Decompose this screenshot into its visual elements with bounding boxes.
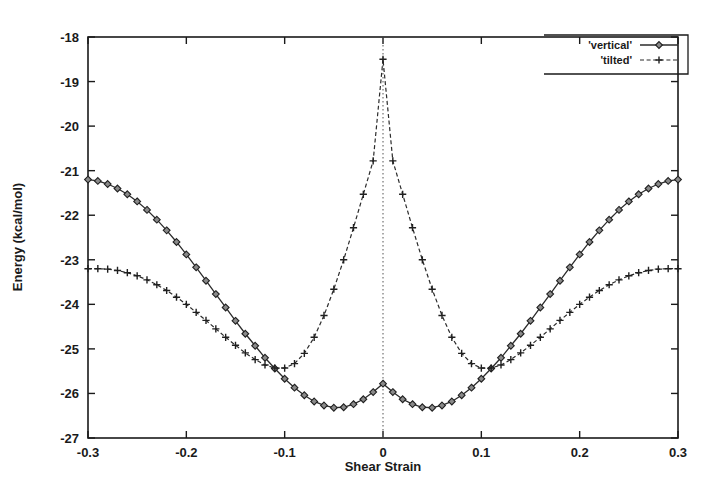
- data-point-marker: [281, 364, 288, 371]
- legend-label-tilted: 'tilted': [600, 54, 632, 66]
- y-tick-label: -20: [60, 119, 79, 134]
- data-point-marker: [143, 276, 150, 283]
- data-point-marker: [665, 265, 672, 272]
- y-tick-label: -26: [60, 386, 79, 401]
- data-point-marker: [429, 404, 436, 411]
- data-point-marker: [419, 404, 426, 411]
- data-point-marker: [350, 401, 357, 408]
- data-point-marker: [330, 286, 337, 293]
- y-axis-tick-labels: -27-26-25-24-23-22-21-20-19-18: [60, 30, 80, 446]
- chart-legend: 'vertical' 'tilted': [544, 35, 688, 74]
- data-point-marker: [448, 334, 455, 341]
- data-point-marker: [665, 178, 672, 185]
- data-point-marker: [360, 191, 367, 198]
- data-point-marker: [645, 185, 652, 192]
- x-tick-label: -0.2: [175, 445, 197, 460]
- data-point-marker: [409, 401, 416, 408]
- data-point-marker: [321, 402, 328, 409]
- legend-marker-diamond-icon: [656, 42, 663, 49]
- data-point-marker: [468, 360, 475, 367]
- data-point-marker: [596, 287, 603, 294]
- data-point-marker: [675, 176, 682, 183]
- data-point-marker: [507, 356, 514, 363]
- data-point-marker: [330, 404, 337, 411]
- x-tick-label: 0.2: [571, 445, 589, 460]
- data-point-marker: [114, 267, 121, 274]
- data-point-marker: [655, 181, 662, 188]
- y-tick-label: -23: [60, 253, 79, 268]
- x-tick-label: -0.1: [273, 445, 295, 460]
- data-point-marker: [606, 281, 613, 288]
- data-point-marker: [399, 191, 406, 198]
- legend-sample-vertical: [640, 42, 678, 49]
- data-point-marker: [645, 267, 652, 274]
- data-point-marker: [566, 309, 573, 316]
- x-tick-label: 0.3: [669, 445, 687, 460]
- x-tick-label: 0: [379, 445, 386, 460]
- x-axis-tick-labels: -0.3-0.2-0.100.10.20.3: [77, 445, 687, 460]
- data-point-marker: [537, 334, 544, 341]
- data-point-marker: [320, 312, 327, 319]
- data-point-marker: [311, 334, 318, 341]
- data-point-marker: [674, 265, 681, 272]
- data-point-marker: [311, 398, 318, 405]
- energy-shear-strain-chart: -27-26-25-24-23-22-21-20-19-18 -0.3-0.2-…: [0, 0, 708, 500]
- data-point-marker: [94, 265, 101, 272]
- data-point-marker: [94, 178, 101, 185]
- data-point-marker: [389, 157, 396, 164]
- y-tick-label: -18: [60, 30, 79, 45]
- legend-marker-plus-icon: [655, 56, 662, 63]
- data-point-marker: [655, 266, 662, 273]
- data-point-marker: [438, 312, 445, 319]
- data-point-marker: [429, 286, 436, 293]
- y-axis-title: Energy (kcal/mol): [10, 183, 25, 291]
- data-point-marker: [625, 272, 632, 279]
- data-point-marker: [527, 342, 534, 349]
- data-point-marker: [409, 224, 416, 231]
- y-tick-label: -22: [60, 208, 79, 223]
- data-point-marker: [497, 361, 504, 368]
- plot-canvas: -27-26-25-24-23-22-21-20-19-18 -0.3-0.2-…: [0, 0, 708, 500]
- x-tick-label: -0.3: [77, 445, 99, 460]
- data-point-marker: [615, 276, 622, 283]
- data-point-marker: [556, 317, 563, 324]
- data-point-marker: [439, 402, 446, 409]
- data-point-marker: [134, 272, 141, 279]
- data-point-marker: [419, 256, 426, 263]
- data-point-marker: [163, 287, 170, 294]
- x-tick-label: 0.1: [472, 445, 490, 460]
- y-tick-label: -19: [60, 75, 79, 90]
- y-tick-label: -24: [60, 297, 80, 312]
- data-point-marker: [124, 269, 131, 276]
- data-point-marker: [114, 185, 121, 192]
- data-point-marker: [379, 56, 386, 63]
- y-tick-label: -25: [60, 342, 79, 357]
- data-point-marker: [173, 294, 180, 301]
- legend-label-vertical: 'vertical': [588, 39, 632, 51]
- data-point-marker: [252, 356, 259, 363]
- data-point-marker: [547, 325, 554, 332]
- data-point-marker: [85, 176, 92, 183]
- data-point-marker: [261, 361, 268, 368]
- data-point-marker: [350, 224, 357, 231]
- data-point-marker: [104, 266, 111, 273]
- data-point-marker: [84, 265, 91, 272]
- data-point-marker: [340, 256, 347, 263]
- x-axis-title: Shear Strain: [345, 459, 422, 474]
- data-point-marker: [104, 181, 111, 188]
- data-point-marker: [478, 364, 485, 371]
- data-point-marker: [635, 269, 642, 276]
- data-point-marker: [458, 350, 465, 357]
- data-point-marker: [340, 404, 347, 411]
- data-point-marker: [370, 157, 377, 164]
- y-tick-label: -27: [60, 431, 79, 446]
- legend-sample-tilted: [640, 56, 678, 63]
- data-point-marker: [153, 281, 160, 288]
- y-tick-label: -21: [60, 164, 79, 179]
- data-point-marker: [448, 398, 455, 405]
- data-point-marker: [183, 301, 190, 308]
